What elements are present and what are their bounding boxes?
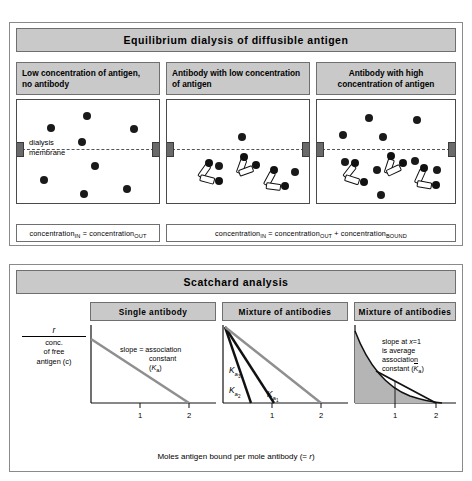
antigen-dot bbox=[379, 133, 387, 141]
cell-2-title-line2: of antigen bbox=[172, 79, 212, 90]
plot-1-xtick-2: 2 bbox=[184, 411, 194, 420]
plot-2-ka3-label: Ka3 bbox=[229, 365, 241, 379]
antigen-dot bbox=[123, 185, 131, 193]
antibody-arm bbox=[344, 174, 360, 185]
x-axis-caption-pre: Moles antigen bound per mole antibody (= bbox=[157, 452, 309, 461]
bound-antigen bbox=[360, 178, 368, 186]
membrane-label-line2: membrane bbox=[29, 148, 65, 158]
plot-1-area: slope = association constant (Ka) 1 2 bbox=[90, 325, 216, 410]
antigen-dot bbox=[78, 138, 86, 146]
membrane-clamp-right-3 bbox=[448, 142, 456, 157]
equation-1-text: concentrationIN = concentrationOUT bbox=[29, 229, 146, 238]
antigen-dot bbox=[80, 190, 88, 198]
antigen-dot bbox=[365, 114, 373, 122]
antigen-dot bbox=[47, 124, 55, 132]
plot-1-annotation: slope = association constant (Ka) bbox=[120, 345, 181, 375]
antigen-dot bbox=[215, 162, 223, 170]
plot-2-ka1-label: Ka1 bbox=[267, 389, 279, 403]
dialysis-cell-2-title: Antibody with low concentration of antig… bbox=[166, 62, 310, 95]
plot-3-annotation-line1: slope at x=1 bbox=[382, 337, 424, 346]
bound-antigen bbox=[387, 152, 395, 160]
cell-1-title-line2: no antibody bbox=[22, 79, 69, 90]
dialysis-cell-3: Antibody with high concentration of anti… bbox=[316, 62, 456, 240]
antibody-arm bbox=[416, 180, 432, 189]
plot-2-xtick-2: 2 bbox=[316, 411, 326, 420]
plot-2-xtick-1: 1 bbox=[267, 411, 277, 420]
plot-3-xtick-1: 1 bbox=[390, 411, 400, 420]
y-axis-denominator-line3: antigen (c) bbox=[22, 357, 86, 366]
antigen-dot bbox=[373, 166, 381, 174]
antigen-dot bbox=[413, 116, 421, 124]
dialysis-cell-3-title: Antibody with high concentration of anti… bbox=[316, 62, 456, 95]
y-axis-denominator-line2: of free bbox=[22, 347, 86, 356]
antigen-dot bbox=[83, 112, 91, 120]
plot-1-xtick-1: 1 bbox=[135, 411, 145, 420]
y-axis-label: r conc. of free antigen (c) bbox=[22, 326, 86, 366]
dialysis-cell-1: Low concentration of antigen, no antibod… bbox=[16, 62, 160, 240]
plot-3-title: Mixture of antibodies bbox=[354, 302, 456, 321]
antigen-dot bbox=[411, 157, 419, 165]
dialysis-chamber-1: dialysis membrane bbox=[16, 99, 160, 204]
plot-3-annotation-line2: is average bbox=[382, 346, 424, 355]
membrane-clamp-left-2 bbox=[166, 142, 174, 157]
antigen-dot bbox=[433, 166, 441, 174]
scatchard-analysis-banner: Scatchard analysis bbox=[16, 270, 456, 294]
plot-1-title: Single antibody bbox=[90, 302, 216, 321]
scatchard-plot-mixture-lines: Mixture of antibodies Ka3 Ka2 Ka1 1 2 bbox=[222, 302, 348, 430]
antigen-dot bbox=[341, 158, 349, 166]
plot-1-annotation-line2: constant bbox=[120, 354, 181, 363]
equation-2-text: concentrationIN = concentrationOUT + con… bbox=[215, 229, 407, 238]
plot-3-area: slope at x=1 is average association cons… bbox=[354, 325, 456, 410]
bound-antigen bbox=[252, 161, 260, 169]
plot-3-annotation-line4: constant (Ka) bbox=[382, 364, 424, 376]
cell-1-title-line1: Low concentration of antigen, bbox=[22, 68, 140, 79]
equilibrium-dialysis-title: Equilibrium dialysis of diffusible antig… bbox=[124, 34, 349, 46]
bound-antigen bbox=[351, 159, 359, 167]
antigen-dot bbox=[339, 131, 347, 139]
membrane-clamp-right-1 bbox=[152, 142, 160, 157]
bound-antigen bbox=[240, 153, 248, 161]
membrane-clamp-left-1 bbox=[16, 142, 24, 157]
x-axis-caption: Moles antigen bound per mole antibody (=… bbox=[0, 452, 472, 461]
bound-antigen bbox=[281, 182, 289, 190]
dialysis-cell-2: Antibody with low concentration of antig… bbox=[166, 62, 310, 240]
plot-2-ka2-label: Ka2 bbox=[229, 385, 241, 399]
figure-root: Equilibrium dialysis of diffusible antig… bbox=[0, 0, 472, 481]
plot-3-xtick-2: 2 bbox=[431, 411, 441, 420]
dialysis-chamber-2 bbox=[166, 99, 310, 204]
antigen-dot bbox=[40, 176, 48, 184]
equation-box-bound-antigen: concentrationIN = concentrationOUT + con… bbox=[166, 224, 456, 242]
bound-antigen bbox=[205, 159, 213, 167]
y-axis-denominator-line1: conc. bbox=[22, 336, 86, 347]
antigen-dot bbox=[291, 168, 299, 176]
bound-antigen bbox=[432, 181, 440, 189]
antibody-arm bbox=[266, 182, 282, 191]
plot-3-annotation: slope at x=1 is average association cons… bbox=[382, 337, 424, 376]
bound-antigen bbox=[399, 159, 407, 167]
scatchard-plot-single-antibody: Single antibody slope = association cons… bbox=[90, 302, 216, 430]
y-axis-numerator: r bbox=[22, 326, 86, 336]
antigen-dot bbox=[130, 125, 138, 133]
cell-3-title-line2: concentration of antigen bbox=[338, 79, 435, 90]
antigen-dot bbox=[377, 191, 385, 199]
membrane-clamp-left-3 bbox=[316, 142, 324, 157]
dialysis-membrane-3 bbox=[317, 149, 455, 150]
membrane-label-line1: dialysis bbox=[29, 138, 65, 148]
plot-2-title: Mixture of antibodies bbox=[222, 302, 348, 321]
plot-2-area: Ka3 Ka2 Ka1 1 2 bbox=[222, 325, 348, 410]
plot-1-annotation-line3: (Ka) bbox=[120, 363, 181, 375]
bound-antigen bbox=[270, 166, 278, 174]
membrane-clamp-right-2 bbox=[302, 142, 310, 157]
dialysis-chamber-3 bbox=[316, 99, 456, 204]
antibody-arm bbox=[199, 174, 215, 185]
equilibrium-dialysis-banner: Equilibrium dialysis of diffusible antig… bbox=[16, 28, 456, 52]
cell-2-title-line1: Antibody with low concentration bbox=[172, 68, 300, 79]
dialysis-membrane-2 bbox=[167, 149, 309, 150]
bound-antigen bbox=[215, 177, 223, 185]
scatchard-plot-mixture-curve: Mixture of antibodies slope at x=1 is av… bbox=[354, 302, 456, 430]
cell-3-title-line1: Antibody with high bbox=[349, 68, 424, 79]
antigen-dot bbox=[238, 133, 246, 141]
scatchard-analysis-title: Scatchard analysis bbox=[183, 276, 288, 288]
membrane-label-1: dialysis membrane bbox=[29, 138, 65, 158]
x-axis-caption-post: ) bbox=[312, 452, 315, 461]
